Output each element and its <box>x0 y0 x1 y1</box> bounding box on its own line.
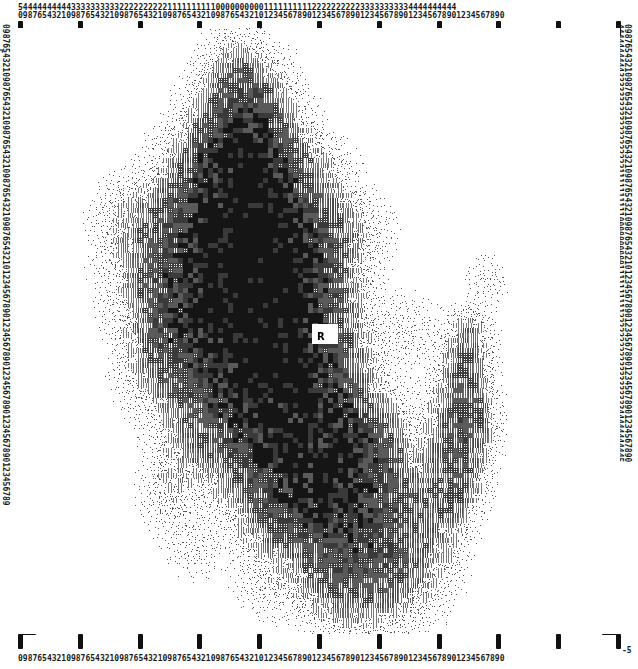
bottom-right-corner-label: -5 <box>622 646 632 655</box>
bottom-tick <box>317 634 322 649</box>
bottom-tick <box>437 634 442 649</box>
left-axis-units-labels: 0987654321098765432109876543210987654321… <box>1 24 9 506</box>
bottom-tick <box>377 634 382 649</box>
bottom-tick <box>138 634 143 649</box>
printer-plot-page: 5444444444433333333332222222222111111111… <box>0 0 638 669</box>
bottom-axis-units-labels: 0987654321098765432109876543210987654321… <box>18 655 504 663</box>
right-axis-units-labels: 0987654321098765432109876543210987654321… <box>623 24 631 462</box>
bottom-tick <box>616 634 621 649</box>
bottom-tick <box>18 634 23 649</box>
bottom-tick <box>556 634 561 649</box>
left-axis-corner-label: -5 <box>0 44 3 54</box>
bottom-tick <box>496 634 501 649</box>
bottom-tick <box>257 634 262 649</box>
r-marker-label: R <box>317 331 325 342</box>
top-axis-units-labels: 0987654321098765432109876543210987654321… <box>18 12 504 20</box>
bottom-tick <box>78 634 83 649</box>
bottom-tick <box>197 634 202 649</box>
